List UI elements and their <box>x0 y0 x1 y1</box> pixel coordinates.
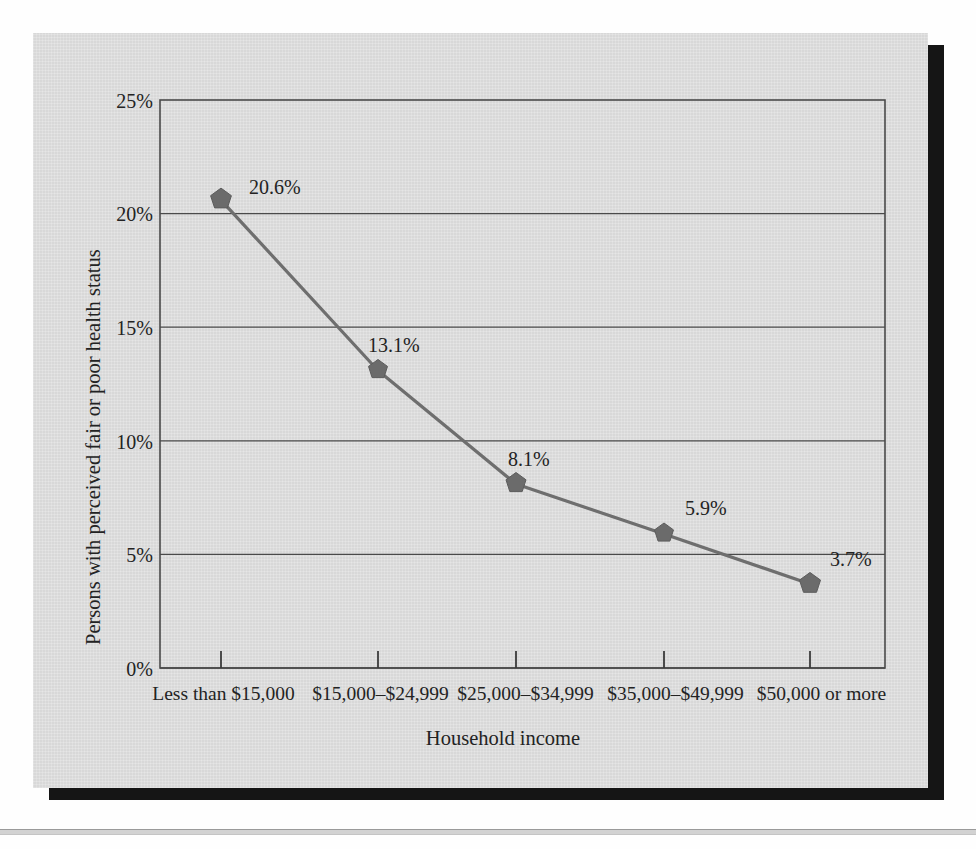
figure-root: 25% 20% 15% 10% 5% 0% Persons with perce… <box>0 0 976 849</box>
chart-panel <box>33 33 928 788</box>
page-bottom-rule <box>0 829 976 835</box>
data-point-label: 20.6% <box>249 176 301 199</box>
data-point-label: 8.1% <box>508 448 550 471</box>
x-tick-label: $50,000 or more <box>744 683 899 705</box>
y-tick-label: 20% <box>93 203 153 226</box>
x-tick-label: $15,000–$24,999 <box>303 683 458 705</box>
data-point-label: 5.9% <box>685 497 727 520</box>
x-axis-title: Household income <box>303 727 703 750</box>
data-point-label: 13.1% <box>368 334 420 357</box>
y-tick-label: 25% <box>93 90 153 113</box>
x-tick-label: Less than $15,000 <box>146 683 301 705</box>
x-tick-label: $25,000–$34,999 <box>448 683 603 705</box>
y-axis-title: Persons with perceived fair or poor heal… <box>82 249 105 645</box>
data-point-label: 3.7% <box>830 548 872 571</box>
x-tick-label: $35,000–$49,999 <box>598 683 753 705</box>
y-tick-label: 0% <box>93 658 153 681</box>
